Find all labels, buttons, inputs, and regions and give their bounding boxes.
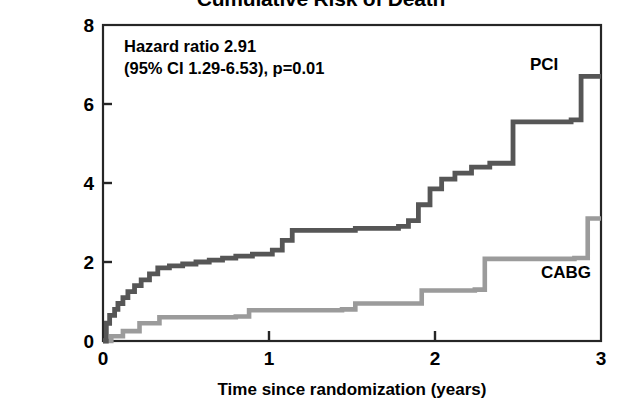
series-label-pci: PCI	[530, 55, 558, 75]
y-tick-label-6: 6	[68, 95, 94, 114]
hazard-ratio-annotation: Hazard ratio 2.91 (95% CI 1.29-6.53), p=…	[124, 36, 324, 80]
chart-title: Cumulative Risk of Death	[0, 0, 642, 11]
x-tick-label-2: 2	[420, 349, 450, 368]
x-tick-label-3: 3	[586, 349, 616, 368]
x-tick-label-0: 0	[88, 349, 118, 368]
series-line-pci	[103, 76, 601, 341]
y-tick-label-8: 8	[68, 16, 94, 35]
y-tick-label-2: 2	[68, 253, 94, 272]
y-tick-label-4: 4	[68, 174, 94, 193]
x-axis-title: Time since randomization (years)	[103, 380, 601, 400]
series-label-cabg: CABG	[541, 263, 591, 283]
series-line-cabg	[103, 219, 601, 341]
chart-figure: Cumulative Risk of Death Cumulative prop…	[0, 0, 642, 412]
x-tick-label-1: 1	[254, 349, 284, 368]
